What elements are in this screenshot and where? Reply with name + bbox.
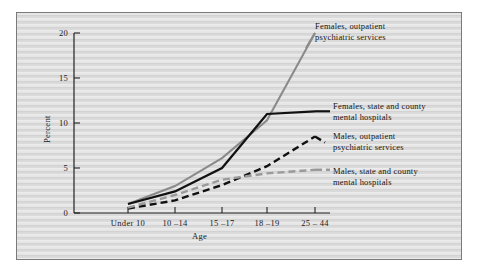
y-tick-label-15: 15 — [48, 73, 68, 83]
y-tick-label-20: 20 — [48, 28, 68, 38]
series-label-males-outpatient: Males, outpatient psychiatric services — [333, 131, 404, 152]
series-label-females-state-county: Females, state and county mental hospita… — [333, 101, 426, 122]
series-label-line-2: psychiatric services — [333, 142, 404, 153]
x-tick-label-under-10: Under 10 — [100, 218, 156, 228]
x-tick-label-10-14: 10 –14 — [151, 218, 199, 228]
series-label-line-2: psychiatric services — [315, 32, 386, 43]
series-label-line-1: Males, outpatient — [333, 131, 404, 142]
series-label-line-1: Females, outpatient — [315, 21, 386, 32]
x-tick-label-25-44: 25 – 44 — [290, 218, 340, 228]
y-tick-label-5: 5 — [52, 163, 68, 173]
series-label-line-2: mental hospitals — [333, 112, 426, 123]
y-axis-title: Percent — [42, 115, 52, 143]
y-tick-label-0: 0 — [52, 208, 68, 218]
series-label-females-outpatient: Females, outpatient psychiatric services — [315, 21, 386, 42]
x-tick-label-18-19: 18 –19 — [243, 218, 291, 228]
x-tick-label-15-17: 15 –17 — [198, 218, 246, 228]
series-label-line-1: Males, state and county — [333, 166, 418, 177]
series-label-line-2: mental hospitals — [333, 177, 418, 188]
chart-figure: 0 5 10 15 20 Percent Under 10 10 –14 15 … — [0, 0, 478, 275]
series-label-line-1: Females, state and county — [333, 101, 426, 112]
series-label-males-state-county: Males, state and county mental hospitals — [333, 166, 418, 187]
x-axis-title: Age — [192, 231, 207, 241]
